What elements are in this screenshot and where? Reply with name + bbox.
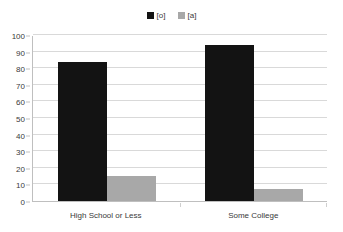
y-tick-mark-80	[26, 69, 30, 70]
y-tick-label-40: 40	[16, 131, 25, 140]
y-tick-label-80: 80	[16, 65, 25, 74]
y-tick-label-70: 70	[16, 81, 25, 90]
y-tick-label-100: 100	[12, 32, 25, 41]
y-tick-label-60: 60	[16, 98, 25, 107]
y-tick-label-20: 20	[16, 164, 25, 173]
y-tick-mark-40	[26, 135, 30, 136]
bar-chart: [o] [a] 1009080706050403020100 High Scho…	[0, 0, 343, 232]
x-tick-label-1: Some College	[180, 211, 328, 221]
bar-0-0	[58, 62, 107, 201]
x-tick-separator-1	[180, 203, 181, 207]
y-tick-mark-10	[26, 185, 30, 186]
legend-entry-0: [o]	[147, 11, 166, 20]
legend-entry-1: [a]	[178, 11, 197, 20]
y-tick-mark-30	[26, 152, 30, 153]
y-tick-mark-50	[26, 119, 30, 120]
legend-swatch-icon-0	[147, 12, 154, 19]
y-tick-mark-90	[26, 52, 30, 53]
x-tick-separator-end	[326, 203, 327, 207]
y-tick-label-90: 90	[16, 48, 25, 57]
chart-legend: [o] [a]	[0, 11, 343, 20]
bar-1-1	[254, 189, 303, 201]
y-axis: 1009080706050403020100	[0, 36, 30, 202]
y-tick-mark-70	[26, 85, 30, 86]
bars-layer	[33, 36, 327, 201]
legend-label-1: [a]	[188, 11, 197, 20]
legend-label-0: [o]	[157, 11, 166, 20]
y-tick-label-30: 30	[16, 148, 25, 157]
y-tick-label-10: 10	[16, 181, 25, 190]
y-tick-label-0: 0	[21, 198, 25, 207]
legend-swatch-icon-1	[178, 12, 185, 19]
bar-0-1	[107, 176, 156, 201]
plot-area	[32, 36, 327, 202]
bar-1-0	[205, 45, 254, 201]
y-tick-mark-20	[26, 168, 30, 169]
y-tick-mark-60	[26, 102, 30, 103]
y-tick-mark-0	[26, 202, 30, 203]
y-tick-mark-100	[26, 36, 30, 37]
gridline-100	[33, 34, 327, 35]
x-tick-label-0: High School or Less	[32, 211, 180, 221]
x-axis: High School or LessSome College	[32, 203, 327, 229]
y-tick-label-50: 50	[16, 115, 25, 124]
